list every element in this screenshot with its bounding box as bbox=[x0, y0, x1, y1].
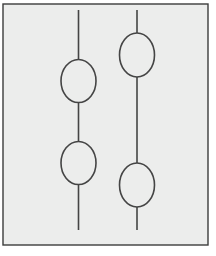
left-ellipse-upper bbox=[61, 60, 96, 103]
figure-root bbox=[0, 0, 216, 256]
figure-canvas bbox=[0, 0, 216, 256]
right-ellipse-lower bbox=[120, 163, 155, 207]
left-ellipse-lower bbox=[61, 142, 96, 185]
right-ellipse-upper bbox=[120, 33, 155, 77]
drawing-panel bbox=[3, 4, 208, 245]
